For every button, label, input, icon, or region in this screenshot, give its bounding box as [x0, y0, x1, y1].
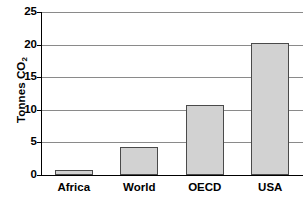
y-tick-mark: [37, 77, 42, 78]
bars-layer: [41, 12, 303, 176]
bar-chart: Tonnes CO2 0510152025 AfricaWorldOECDUSA: [0, 0, 307, 211]
y-tick-label: 15: [7, 71, 37, 83]
y-tick-label: 0: [7, 169, 37, 181]
bar-slot: [186, 12, 224, 176]
y-tick-mark: [37, 12, 42, 13]
x-category-label: USA: [230, 182, 307, 194]
y-tick-label: 25: [7, 6, 37, 18]
y-tick-label: 10: [7, 104, 37, 116]
bar: [120, 147, 158, 175]
y-tick-mark: [37, 175, 42, 176]
y-tick-mark: [37, 142, 42, 143]
bar: [186, 105, 224, 175]
y-tick-label: 5: [7, 136, 37, 148]
bar: [55, 170, 93, 175]
y-tick-mark: [37, 45, 42, 46]
bar-slot: [120, 12, 158, 176]
bar: [251, 43, 289, 175]
bar-slot: [251, 12, 289, 176]
y-axis-title-subscript: 2: [20, 57, 29, 62]
y-tick-mark: [37, 110, 42, 111]
y-tick-label: 20: [7, 39, 37, 51]
bar-slot: [55, 12, 93, 176]
